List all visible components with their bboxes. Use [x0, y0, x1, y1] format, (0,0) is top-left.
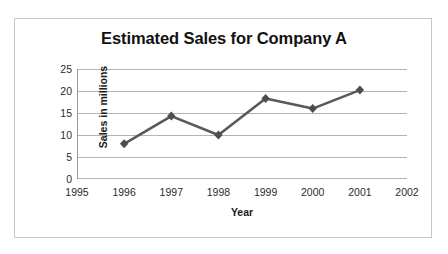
y-tick-label: 25: [32, 63, 72, 75]
chart-title: Estimated Sales for Company A: [15, 29, 433, 48]
y-axis-title: Sales in millions: [97, 47, 109, 167]
x-tick-label: 1997: [160, 186, 183, 198]
gridlines: [77, 70, 407, 179]
x-tick-label: 1999: [254, 186, 277, 198]
y-tick-label: 0: [32, 173, 72, 185]
x-axis-title: Year: [77, 206, 407, 218]
y-tick-label: 5: [32, 151, 72, 163]
data-point-marker: [309, 104, 317, 113]
x-tick-label: 1996: [112, 186, 135, 198]
x-tick-label: 2002: [395, 186, 418, 198]
plot-area: Sales in millions 25 20 15 10 5 0: [77, 69, 407, 179]
x-tick-label: 1998: [207, 186, 230, 198]
plot-svg: [77, 69, 407, 179]
y-tick-label: 10: [32, 129, 72, 141]
y-tick-label: 20: [32, 85, 72, 97]
data-series-line: [120, 86, 364, 149]
x-tick-label: 2000: [301, 186, 324, 198]
y-tick-label: 15: [32, 107, 72, 119]
data-point-marker: [356, 86, 364, 95]
x-tick-label: 1995: [65, 186, 88, 198]
chart-frame: Estimated Sales for Company A Sales in m…: [14, 18, 432, 238]
x-tick-label: 2001: [348, 186, 371, 198]
